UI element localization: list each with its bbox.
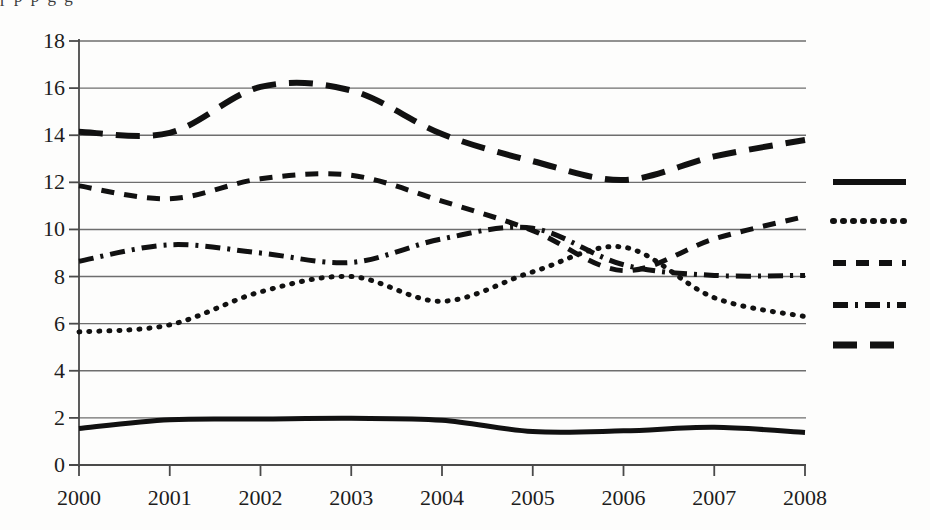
x-axis-label: 2002: [220, 487, 302, 509]
y-axis-ticks: [69, 41, 79, 465]
series-line-series-4: [79, 227, 805, 276]
gridlines: [79, 41, 806, 418]
chart-page: ɼ p p g g 024681012141618 20002001200220…: [0, 0, 930, 530]
axes: [69, 39, 806, 467]
x-axis-label: 2004: [401, 487, 483, 509]
y-axis-label: 16: [21, 77, 65, 99]
x-axis-label: 2005: [492, 487, 574, 509]
y-axis-label: 10: [21, 218, 65, 240]
series-line-series-5: [79, 83, 805, 180]
x-axis-label: 2003: [310, 487, 392, 509]
x-axis-label: 2008: [764, 487, 846, 509]
y-axis-label: 2: [21, 407, 65, 429]
x-axis-ticks: [79, 465, 805, 476]
series-line-series-2: [79, 247, 805, 332]
series-line-series-1: [79, 418, 805, 432]
y-axis-label: 12: [21, 171, 65, 193]
x-axis-label: 2006: [583, 487, 665, 509]
x-axis-label: 2000: [38, 487, 120, 509]
series-line-series-3: [79, 174, 805, 271]
chart-legend: [833, 182, 906, 345]
x-axis-label: 2007: [673, 487, 755, 509]
y-axis-label: 6: [21, 313, 65, 335]
y-axis-label: 18: [21, 30, 65, 52]
y-axis-label: 0: [21, 454, 65, 476]
x-axis-label: 2001: [129, 487, 211, 509]
y-axis-label: 4: [21, 360, 65, 382]
y-axis-label: 14: [21, 124, 65, 146]
y-axis-label: 8: [21, 266, 65, 288]
line-chart: [0, 0, 930, 530]
